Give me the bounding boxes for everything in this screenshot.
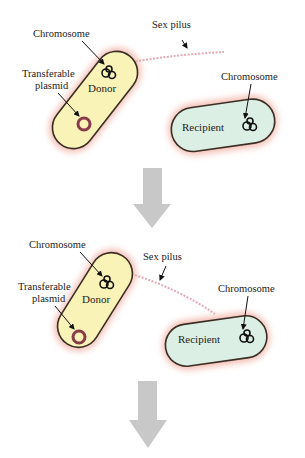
step-arrow-down-icon	[129, 381, 167, 448]
chromosome-recipient-label: Chromosome	[221, 71, 278, 82]
panel-2: Donor Recipient Chromosome Sex pilus Tra…	[18, 239, 275, 373]
plasmid-label-line2: plasmid	[35, 80, 69, 91]
sex-pilus	[135, 275, 215, 314]
donor-cell	[39, 38, 151, 162]
recipient-label: Recipient	[178, 333, 220, 345]
chromosome-donor-label: Chromosome	[29, 239, 86, 250]
plasmid-label-line1: Transferable	[18, 281, 71, 292]
recipient-label: Recipient	[182, 121, 224, 133]
sex-pilus-label: Sex pilus	[143, 251, 182, 262]
conjugation-diagram: Donor Recipient Chromosome Sex pilus Tra…	[0, 0, 305, 458]
chromosome-recipient-label: Chromosome	[218, 283, 275, 294]
panel-1: Donor Recipient Chromosome Sex pilus Tra…	[22, 19, 281, 162]
donor-label: Donor	[88, 82, 116, 94]
sex-pilus-label: Sex pilus	[152, 19, 191, 30]
plasmid-label-line2: plasmid	[32, 293, 66, 304]
donor-label: Donor	[82, 293, 110, 305]
sex-pilus	[132, 52, 224, 62]
plasmid-label-line1: Transferable	[22, 68, 75, 79]
step-arrow-down-icon	[133, 168, 171, 228]
chromosome-donor-label: Chromosome	[33, 28, 90, 39]
